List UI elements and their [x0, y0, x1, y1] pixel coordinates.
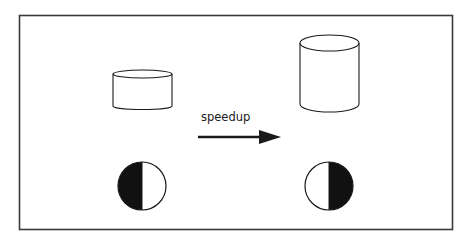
speedup-label: speedup: [201, 110, 250, 124]
short-cylinder-body: [113, 74, 172, 110]
before-indicator: [118, 162, 166, 210]
arrow-head-icon: [259, 130, 281, 144]
speedup-arrow: [198, 130, 281, 144]
before-indicator-filled-half: [118, 162, 142, 210]
short-cylinder: [113, 70, 172, 110]
tall-cylinder-body: [300, 43, 359, 112]
after-indicator: [305, 162, 353, 210]
diagram-canvas: speedup: [0, 0, 471, 240]
after-indicator-filled-half: [329, 162, 353, 210]
short-cylinder-top: [113, 70, 172, 78]
tall-cylinder: [300, 35, 359, 112]
tall-cylinder-top: [300, 35, 359, 51]
